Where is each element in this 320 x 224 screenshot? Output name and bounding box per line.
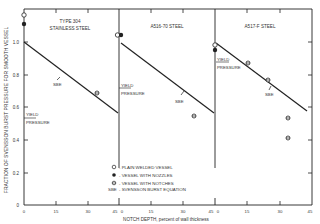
- y-tick-labels: 0 0.2 0.4 0.6 0.8 1.0: [13, 40, 20, 208]
- notch-marker: [246, 61, 250, 65]
- svg-text:PRESSURE: PRESSURE: [217, 65, 241, 70]
- svg-text:YIELD: YIELD: [217, 57, 229, 62]
- notch-marker: [286, 116, 290, 120]
- svg-text:30: 30: [86, 209, 91, 214]
- nozzle-marker: [119, 33, 123, 37]
- svg-text:45: 45: [113, 209, 118, 214]
- svg-text:0: 0: [23, 209, 26, 214]
- notch-marker: [192, 114, 196, 118]
- svg-text:45: 45: [308, 209, 313, 214]
- svg-text:1.0: 1.0: [13, 40, 20, 45]
- sbe-label: SBE: [265, 92, 274, 97]
- panel-title: A517-F STEEL: [245, 24, 276, 29]
- svg-text:0: 0: [121, 209, 124, 214]
- legend-entry: - VESSEL WITH NOZZLES: [119, 173, 173, 178]
- panel-title: TYPE 304: [60, 19, 81, 24]
- plain-welded-marker: [213, 43, 217, 47]
- sbe-line: [121, 43, 214, 113]
- legend-filled-circle-icon: [112, 173, 116, 177]
- legend-sbe-symbol: SBE: [108, 187, 117, 192]
- nozzle-marker: [213, 48, 217, 52]
- svg-text:0.4: 0.4: [13, 138, 20, 143]
- sbe-line: [216, 43, 307, 111]
- legend-entry: - PLAIN WELDED VESSEL: [119, 165, 173, 170]
- notch-marker: [95, 91, 99, 95]
- svg-text:YIELD: YIELD: [121, 83, 133, 88]
- svg-text:30: 30: [181, 209, 186, 214]
- sbe-label: SBE: [53, 82, 62, 87]
- svg-text:PRESSURE: PRESSURE: [121, 91, 145, 96]
- chart: FRACTION OF SVENSSON BURST PRESSURE FOR …: [0, 0, 320, 224]
- svg-text:15: 15: [149, 209, 154, 214]
- y-axis-label: FRACTION OF SVENSSON BURST PRESSURE FOR …: [3, 27, 9, 194]
- sbe-label: SBE: [175, 99, 184, 104]
- svg-text:15: 15: [245, 209, 250, 214]
- panel-a517-f: A517-F STEEL SBE YIELD PRESSURE: [213, 24, 307, 140]
- svg-text:0.6: 0.6: [13, 105, 20, 110]
- legend-crossed-circle-icon: [112, 181, 116, 185]
- nozzle-marker: [22, 22, 26, 26]
- svg-text:YIELD: YIELD: [26, 112, 38, 117]
- svg-text:0.8: 0.8: [13, 73, 20, 78]
- svg-text:0.2: 0.2: [13, 171, 20, 176]
- notch-marker: [266, 78, 270, 82]
- legend-entry: - VESSEL WITH NOTCHES: [119, 181, 174, 186]
- legend-open-circle-icon: [112, 165, 116, 169]
- plain-welded-marker: [22, 13, 26, 17]
- panel-title: A516-70 STEEL: [150, 24, 184, 29]
- panel-type-304: TYPE 304 STAINLESS STEEL SBE YIELD PRESS…: [22, 13, 118, 125]
- sbe-line: [24, 42, 118, 113]
- svg-text:15: 15: [54, 209, 59, 214]
- x-axis-label: NOTCH DEPTH, percent of wall thickness: [123, 217, 209, 222]
- svg-text:PRESSURE: PRESSURE: [26, 120, 50, 125]
- legend: - PLAIN WELDED VESSEL - VESSEL WITH NOZZ…: [108, 165, 186, 192]
- x-tick-labels: 0 15 30 45 0 15 30 45 0 15 30 45: [23, 209, 313, 214]
- svg-text:45: 45: [209, 209, 214, 214]
- panel-subtitle: STAINLESS STEEL: [50, 26, 91, 31]
- panel-a516-70: A516-70 STEEL SBE YIELD PRESSURE: [115, 24, 214, 118]
- svg-text:0: 0: [16, 203, 19, 208]
- svg-text:30: 30: [278, 209, 283, 214]
- svg-text:0: 0: [217, 209, 220, 214]
- notch-marker: [286, 136, 290, 140]
- legend-entry: - SVENSSON BURST EQUATION: [119, 187, 186, 192]
